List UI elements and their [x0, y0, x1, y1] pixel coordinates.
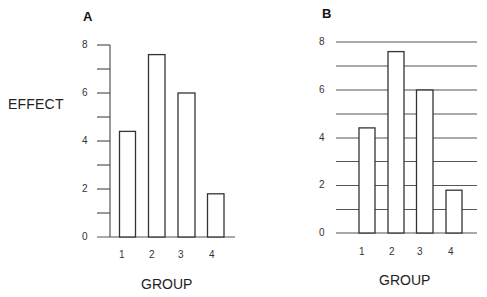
panel-b-bar-2 [388, 52, 404, 233]
panel-b-bars [359, 52, 462, 233]
panel-a-bar-2 [149, 55, 166, 237]
panel-b-bar-4 [446, 190, 462, 233]
panel-a-bar-3 [178, 93, 195, 237]
panel-a-bar-4 [208, 194, 225, 237]
chart-canvas [0, 0, 487, 297]
panel-b-bar-1 [359, 128, 375, 233]
panel-a-bars [120, 55, 225, 237]
panel-b-bar-3 [417, 90, 434, 233]
panel-a-bar-1 [120, 131, 136, 237]
